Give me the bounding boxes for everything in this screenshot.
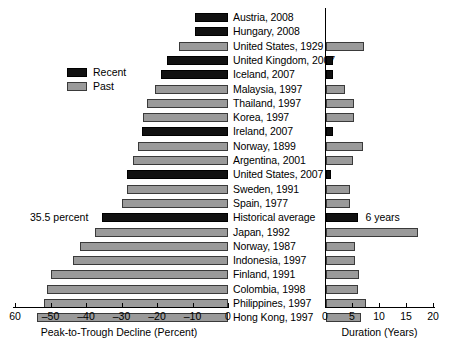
duration-axis-line xyxy=(325,307,435,308)
duration-bar xyxy=(326,256,355,265)
decline-bar xyxy=(102,213,228,222)
annotation-decline: 35.5 percent xyxy=(30,212,88,223)
row-label: Philippines, 1997 xyxy=(233,298,311,309)
duration-bar xyxy=(326,185,350,194)
duration-bar xyxy=(326,42,364,51)
duration-tick xyxy=(352,303,353,308)
duration-bar xyxy=(326,99,354,108)
decline-tick-label: –30 xyxy=(102,311,142,322)
row-label: Ireland, 2007 xyxy=(233,126,293,137)
annotation-duration: 6 years xyxy=(365,212,399,223)
decline-bar xyxy=(122,199,228,208)
row-label: Finland, 1991 xyxy=(233,269,295,280)
decline-bar xyxy=(161,70,228,79)
decline-bar xyxy=(80,242,228,251)
decline-bar xyxy=(142,127,228,136)
decline-bar xyxy=(147,99,228,108)
duration-bar xyxy=(326,127,333,136)
row-label: Austria, 2008 xyxy=(233,12,294,23)
duration-bar xyxy=(326,170,331,179)
duration-tick xyxy=(325,303,326,308)
decline-bar xyxy=(127,170,228,179)
row-label: United States, 1929 xyxy=(233,41,323,52)
row-label: Norway, 1987 xyxy=(233,241,296,252)
row-label: Historical average xyxy=(233,212,315,223)
decline-bar xyxy=(167,56,228,65)
duration-bar xyxy=(326,213,358,222)
duration-tick-label: 20 xyxy=(413,311,449,322)
duration-bar xyxy=(326,242,355,251)
legend-swatch-recent xyxy=(67,68,87,77)
decline-tick-label: –40 xyxy=(66,311,106,322)
row-label: Hungary, 2008 xyxy=(233,26,300,37)
decline-tick-label: –50 xyxy=(31,311,71,322)
decline-axis-title: Peak-to-Trough Decline (Percent) xyxy=(10,326,228,338)
decline-tick xyxy=(193,303,194,308)
decline-bar xyxy=(195,13,228,22)
row-label: Norway, 1899 xyxy=(233,141,296,152)
decline-bar xyxy=(127,185,228,194)
duration-axis-title: Duration (Years) xyxy=(325,326,434,338)
row-label: Iceland, 2007 xyxy=(233,69,295,80)
row-label: Spain, 1977 xyxy=(233,198,288,209)
row-label: Malaysia, 1997 xyxy=(233,84,302,95)
decline-tick xyxy=(122,303,123,308)
duration-bar xyxy=(326,113,354,122)
duration-bar xyxy=(326,270,359,279)
duration-bar xyxy=(326,56,333,65)
duration-bar xyxy=(326,228,418,237)
legend-label-recent: Recent xyxy=(93,67,126,78)
decline-tick xyxy=(51,303,52,308)
decline-tick xyxy=(157,303,158,308)
decline-tick xyxy=(86,303,87,308)
decline-tick-label: –20 xyxy=(137,311,177,322)
legend-label-past: Past xyxy=(93,81,114,92)
decline-bar xyxy=(143,113,228,122)
duration-tick xyxy=(406,303,407,308)
row-label: Japan, 1992 xyxy=(233,227,290,238)
duration-bar xyxy=(326,70,333,79)
decline-bar xyxy=(155,85,228,94)
duration-tick xyxy=(379,303,380,308)
decline-bar xyxy=(73,256,228,265)
row-label: United Kingdom, 2007 xyxy=(233,55,335,66)
row-label: Colombia, 1998 xyxy=(233,284,305,295)
duration-bar xyxy=(326,142,363,151)
duration-bar xyxy=(326,199,350,208)
decline-tick-label: 0 xyxy=(208,311,248,322)
chart-figure: Austria, 2008Hungary, 2008United States,… xyxy=(0,0,449,353)
row-label: United States, 2007 xyxy=(233,169,323,180)
duration-bar xyxy=(326,85,345,94)
row-label: Indonesia, 1997 xyxy=(233,255,306,266)
decline-bar xyxy=(179,42,228,51)
decline-tick xyxy=(15,303,16,308)
legend-swatch-past xyxy=(67,82,87,91)
decline-bar xyxy=(51,270,228,279)
row-label: Korea, 1997 xyxy=(233,112,289,123)
decline-tick-label: –10 xyxy=(173,311,213,322)
decline-bar xyxy=(95,228,228,237)
decline-bar xyxy=(133,156,228,165)
row-label: Thailand, 1997 xyxy=(233,98,301,109)
row-label: Sweden, 1991 xyxy=(233,184,299,195)
decline-bar xyxy=(47,285,228,294)
row-label: Argentina, 2001 xyxy=(233,155,306,166)
duration-bar xyxy=(326,285,358,294)
decline-bar xyxy=(195,27,228,36)
duration-tick xyxy=(433,303,434,308)
duration-bar xyxy=(326,156,353,165)
decline-tick xyxy=(228,303,229,308)
decline-bar xyxy=(138,142,228,151)
